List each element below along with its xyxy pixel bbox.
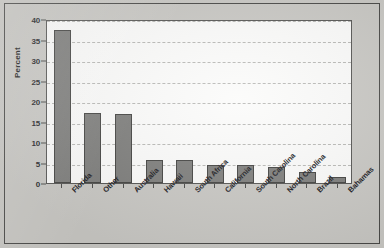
y-tick-label-35: 35 bbox=[32, 36, 41, 45]
bar bbox=[115, 114, 132, 183]
y-tick-label-0: 0 bbox=[36, 180, 40, 189]
x-tick-label: South Carolina bbox=[254, 188, 260, 194]
x-tick-label: South Africa bbox=[193, 188, 199, 194]
y-axis: 0510152025303540 bbox=[0, 20, 46, 184]
y-tick-label-40: 40 bbox=[32, 16, 41, 25]
x-tick-label: Florida bbox=[70, 188, 76, 194]
plot-area bbox=[46, 20, 352, 184]
x-tick-label: Brazil bbox=[315, 188, 321, 194]
y-tick-label-10: 10 bbox=[32, 139, 41, 148]
x-axis-labels: FloridaOtherAustraliaHawaiiSouth AfricaC… bbox=[46, 188, 352, 244]
x-tick-label: California bbox=[223, 188, 229, 194]
y-tick-label-20: 20 bbox=[32, 98, 41, 107]
y-tick-label-5: 5 bbox=[36, 159, 40, 168]
y-tick-label-15: 15 bbox=[32, 118, 41, 127]
bar bbox=[54, 30, 71, 183]
x-tick-label: Australia bbox=[132, 188, 138, 194]
x-tick-label: Bahamas bbox=[346, 188, 352, 194]
x-tick-label: Hawaii bbox=[162, 188, 168, 194]
y-tick-label-30: 30 bbox=[32, 57, 41, 66]
figure-root: Percent 0510152025303540 FloridaOtherAus… bbox=[0, 0, 384, 248]
bar-series bbox=[47, 21, 351, 183]
y-tick-label-25: 25 bbox=[32, 77, 41, 86]
x-tick-label: Other bbox=[101, 188, 107, 194]
x-tick-label: North Carolina bbox=[285, 188, 291, 194]
